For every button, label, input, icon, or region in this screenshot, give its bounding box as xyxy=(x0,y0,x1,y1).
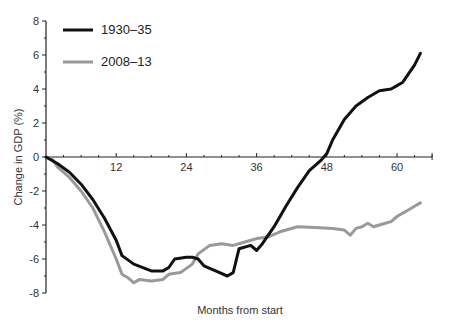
y-tick-label: -6 xyxy=(29,253,39,265)
x-axis-title: Months from start xyxy=(197,304,283,316)
legend: 1930–35 2008–13 xyxy=(63,22,152,69)
x-tick-label: 36 xyxy=(250,161,262,173)
y-axis-title: Change in GDP (%) xyxy=(12,108,24,205)
y-tick-label: 0 xyxy=(33,151,39,163)
y-tick-label: 8 xyxy=(33,15,39,27)
x-tick-label: 60 xyxy=(391,161,403,173)
y-tick-label: -8 xyxy=(29,287,39,299)
y-tick-label: -2 xyxy=(29,185,39,197)
x-tick-label: 24 xyxy=(180,161,192,173)
series-line-2008-13 xyxy=(46,157,420,283)
series-line-1930-35 xyxy=(46,53,420,276)
x-tick-label: 12 xyxy=(110,161,122,173)
legend-label-2008-13: 2008–13 xyxy=(101,54,152,69)
y-axis: -8-6-4-202468 xyxy=(29,15,46,299)
y-tick-label: -4 xyxy=(29,219,39,231)
gdp-line-chart: -8-6-4-202468 1224364860 1930–35 2008–13… xyxy=(0,0,450,325)
series-layer xyxy=(46,53,420,282)
legend-label-1930-35: 1930–35 xyxy=(101,22,152,37)
x-axis: 1224364860 xyxy=(46,153,432,173)
x-tick-label: 48 xyxy=(321,161,333,173)
y-tick-label: 4 xyxy=(33,83,39,95)
y-tick-label: 2 xyxy=(33,117,39,129)
y-tick-label: 6 xyxy=(33,49,39,61)
